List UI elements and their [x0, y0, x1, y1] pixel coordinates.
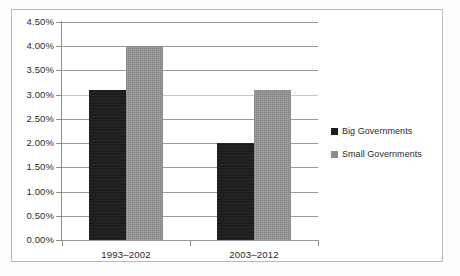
y-axis-tick-label: 0.50% — [27, 210, 54, 221]
x-axis-tick-mark — [62, 240, 63, 246]
y-axis-tick-label: 4.50% — [27, 16, 54, 27]
y-axis-tick-label: 4.00% — [27, 40, 54, 51]
y-axis-tick-label: 3.00% — [27, 89, 54, 100]
y-axis-tick-mark — [56, 167, 62, 168]
y-axis-tick-mark — [56, 216, 62, 217]
gridline — [62, 46, 318, 47]
y-axis-tick-label: 1.00% — [27, 186, 54, 197]
y-axis-tick-mark — [56, 22, 62, 23]
y-axis-tick-mark — [56, 119, 62, 120]
x-axis-category-label: 1993–2002 — [62, 249, 190, 260]
y-axis-tick-mark — [56, 192, 62, 193]
y-axis-tick-label: 3.50% — [27, 64, 54, 75]
x-axis-tick-mark — [190, 240, 191, 246]
bar-big-governments — [217, 143, 254, 240]
legend-label: Big Governments — [342, 126, 412, 136]
y-axis-tick-label: 2.50% — [27, 113, 54, 124]
y-axis-tick-labels: 0.00%0.50%1.00%1.50%2.00%2.50%3.00%3.50%… — [0, 0, 54, 276]
legend-swatch-icon — [331, 151, 338, 158]
legend-swatch-icon — [331, 128, 338, 135]
bar-chart-figure: 0.00%0.50%1.00%1.50%2.00%2.50%3.00%3.50%… — [0, 0, 460, 276]
y-axis-tick-mark — [56, 70, 62, 71]
y-axis-tick-mark — [56, 95, 62, 96]
gridline — [62, 70, 318, 71]
y-axis-tick-label: 1.50% — [27, 161, 54, 172]
bar-small-governments — [126, 46, 163, 240]
x-axis-category-label: 2003–2012 — [190, 249, 318, 260]
y-axis-tick-mark — [56, 46, 62, 47]
bar-small-governments — [254, 90, 291, 240]
y-axis-tick-mark — [56, 143, 62, 144]
legend-item: Small Governments — [331, 149, 431, 159]
x-axis-tick-mark — [318, 240, 319, 246]
gridline — [62, 22, 318, 23]
bar-big-governments — [89, 90, 126, 240]
plot-area — [62, 22, 318, 240]
legend-item: Big Governments — [331, 126, 431, 136]
chart-legend: Big GovernmentsSmall Governments — [331, 126, 431, 172]
legend-label: Small Governments — [342, 149, 422, 159]
y-axis-tick-label: 0.00% — [27, 234, 54, 245]
y-axis-tick-label: 2.00% — [27, 137, 54, 148]
